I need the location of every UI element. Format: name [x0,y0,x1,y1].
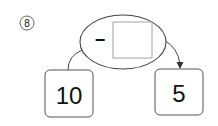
problem-number-badge: 8 [20,16,34,30]
answer-box[interactable] [113,22,152,58]
start-value-box: 10 [45,70,93,117]
problem-number: 8 [24,18,30,29]
left-connector-curve [68,50,82,70]
start-value: 10 [56,82,83,109]
result-value-box: 5 [155,69,203,115]
result-value: 5 [172,80,185,107]
subtraction-diagram: 8 − 10 5 [0,0,218,126]
operator-sign: − [95,30,106,50]
arrowhead-icon [177,62,184,69]
operation-bubble: − [80,15,166,69]
